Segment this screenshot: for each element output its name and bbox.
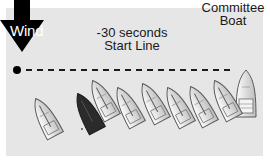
boats-layer [0, 0, 270, 164]
marker-dot-icon [81, 128, 83, 130]
boat-1-icon [28, 94, 64, 140]
